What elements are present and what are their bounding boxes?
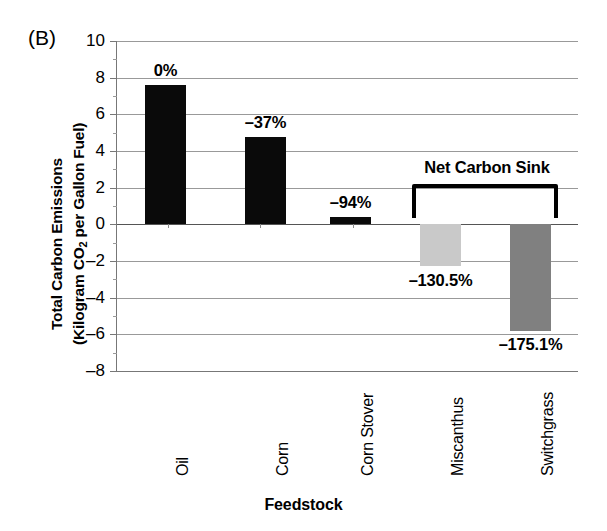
bar-switchgrass[interactable] (510, 224, 551, 330)
x-category-label: Corn Stover (359, 393, 377, 476)
bar-oil[interactable] (145, 85, 186, 224)
y-tick-minor (113, 133, 117, 134)
gridline (117, 224, 578, 225)
x-category-label: Miscanthus (449, 397, 467, 476)
figure-panel-b: (B) Total Carbon Emissions (Kilogram CO2… (0, 0, 607, 531)
gridline (117, 261, 578, 262)
y-tick-label: 0 (65, 215, 105, 232)
y-tick-major (110, 151, 117, 152)
y-tick-label: 6 (65, 105, 105, 122)
bracket-right-leg (554, 186, 558, 218)
bracket-top-bar (412, 184, 558, 188)
y-axis-title-line1: Total Carbon Emissions (48, 158, 66, 330)
y-axis-title-subscript: 2 (77, 242, 89, 248)
bar-miscanthus[interactable] (420, 224, 461, 266)
y-tick-major (110, 334, 117, 335)
y-tick-label: 10 (65, 32, 105, 49)
y-tick-major (110, 261, 117, 262)
x-tick (353, 224, 354, 228)
x-category-label: Corn (274, 442, 292, 476)
y-tick-major (110, 114, 117, 115)
bar-value-label: 0% (106, 61, 226, 80)
gridline (117, 41, 578, 42)
gridline (117, 371, 578, 372)
x-axis-title: Feedstock (0, 496, 607, 514)
y-tick-label: –2 (65, 252, 105, 269)
y-tick-major (110, 41, 117, 42)
y-tick-major (110, 188, 117, 189)
y-tick-minor (113, 353, 117, 354)
y-tick-label: –8 (65, 362, 105, 379)
y-tick-minor (113, 169, 117, 170)
x-tick (260, 224, 261, 228)
y-tick-major (110, 298, 117, 299)
gridline (117, 298, 578, 299)
y-tick-major (110, 371, 117, 372)
gridline (117, 114, 578, 115)
y-tick-minor (113, 243, 117, 244)
bar-value-label: –175.1% (471, 335, 591, 354)
y-tick-minor (113, 96, 117, 97)
y-tick-label: –6 (65, 325, 105, 342)
gridline (117, 151, 578, 152)
bar-value-label: –94% (291, 193, 411, 212)
y-tick-major (110, 224, 117, 225)
y-tick-label: –4 (65, 289, 105, 306)
bar-corn-stover[interactable] (330, 217, 371, 224)
y-tick-label: 2 (65, 179, 105, 196)
x-category-label: Switchgrass (539, 392, 557, 476)
bar-corn[interactable] (245, 137, 286, 224)
bar-value-label: –37% (206, 113, 326, 132)
y-tick-label: 4 (65, 142, 105, 159)
y-tick-minor (113, 279, 117, 280)
y-tick-label: 8 (65, 69, 105, 86)
y-tick-minor (113, 206, 117, 207)
y-tick-minor (113, 316, 117, 317)
net-carbon-sink-label: Net Carbon Sink (412, 158, 562, 177)
x-category-label: Oil (174, 457, 192, 476)
bracket-left-leg (412, 186, 416, 218)
x-tick (168, 224, 169, 228)
bar-value-label: –130.5% (381, 271, 501, 290)
net-carbon-sink-bracket (412, 184, 558, 218)
